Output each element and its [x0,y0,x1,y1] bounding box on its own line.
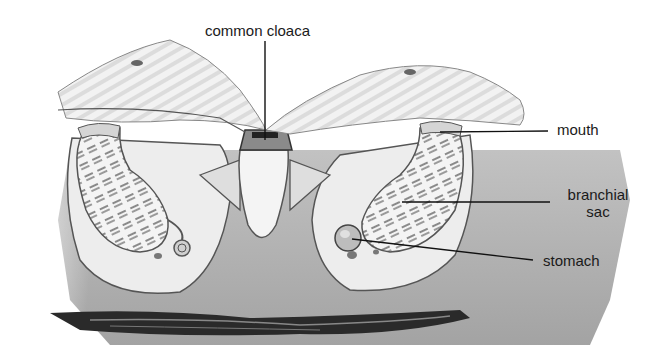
illustration [0,0,667,364]
leader-mouth [440,131,548,132]
label-branchial-sac-line1: branchial [560,186,636,203]
label-mouth: mouth [557,121,599,138]
left-zooid [68,123,231,293]
label-branchial-sac: branchial sac [560,186,636,220]
label-common-cloaca: common cloaca [205,22,310,39]
label-stomach: stomach [543,252,600,269]
tunic-surface [58,40,524,134]
label-branchial-sac-line2: sac [560,203,636,220]
diagram: common cloaca mouth branchial sac stomac… [0,0,667,364]
